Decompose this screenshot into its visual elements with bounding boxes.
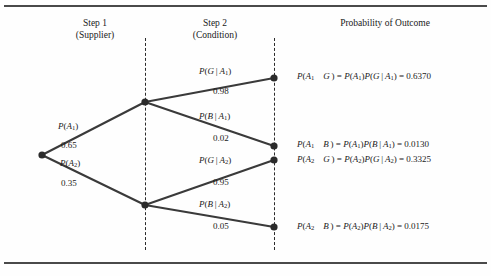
branch-label-a1-sub: 1	[72, 124, 75, 131]
outcome-1-rhs-first: P	[343, 139, 349, 149]
node-a2	[141, 201, 148, 208]
branch-label-a2: P(A2)	[60, 158, 80, 170]
branch-value-a2: 0.35	[61, 178, 77, 188]
node-outcome-a2-g	[270, 156, 277, 163]
outcome-1-lhs-sub: 1	[311, 142, 314, 149]
node-a1	[141, 98, 148, 105]
branch-label-a2-p: P	[60, 158, 66, 168]
tree-edges-and-nodes	[0, 0, 491, 276]
outcome-3-result: 0.0175	[404, 221, 429, 231]
branch-value-b-given-a2: 0.05	[213, 221, 229, 231]
outcome-2-rhs-second-var: G	[373, 154, 380, 164]
outcome-3-lhs-sub: 2	[311, 224, 314, 231]
branch-label-a2-sub: 2	[74, 161, 77, 168]
branch-label-a1: P(A1)	[58, 121, 78, 133]
outcome-2-result: 0.3325	[406, 154, 431, 164]
outcome-0-second-var: G	[323, 71, 330, 81]
outcome-1-rhs-second-sub: 1	[388, 142, 391, 149]
branch-label-a1-p: P	[58, 121, 64, 131]
branch-value-g-given-a2: 0.95	[213, 177, 229, 187]
outcome-2-rhs-first-sub: 2	[358, 157, 361, 164]
outcome-row-a2-b: P(A2B ) = P(A2)P(B | A2) = 0.0175	[297, 221, 429, 231]
node-outcome-a2-b	[270, 223, 277, 230]
edge-a1-to-g	[145, 78, 274, 102]
outcome-0-result: 0.6370	[406, 71, 431, 81]
outcome-2-rhs-first: P	[344, 154, 350, 164]
outcome-1-result: 0.0130	[404, 139, 429, 149]
node-outcome-a1-b	[270, 142, 277, 149]
branch-label-g-given-a2: P(G | A2)	[199, 155, 231, 167]
outcome-3-second-var: B	[323, 221, 329, 231]
outcome-row-a1-g: P(A1G ) = P(A1)P(G | A1) = 0.6370	[297, 71, 431, 81]
node-root	[38, 151, 45, 158]
outcome-0-rhs-second-var: G	[373, 71, 380, 81]
edge-root-to-a2	[42, 155, 145, 205]
node-outcome-a1-g	[270, 74, 277, 81]
outcome-1-second-var: B	[323, 139, 329, 149]
outcome-2-rhs-second-sub: 2	[390, 157, 393, 164]
probability-tree-figure: Step 1 (Supplier) Step 2 (Condition) Pro…	[0, 0, 491, 276]
branch-value-a1: 0.65	[61, 140, 77, 150]
outcome-1-rhs-first-sub: 1	[357, 142, 360, 149]
outcome-1-rhs-second-var: B	[372, 139, 378, 149]
outcome-3-rhs-first: P	[343, 221, 349, 231]
outcome-3-rhs-first-sub: 2	[357, 224, 360, 231]
edge-a1-to-b	[145, 102, 274, 146]
outcome-3-rhs-second-var: B	[372, 221, 378, 231]
branch-label-g-given-a1: P(G | A1)	[199, 66, 231, 78]
outcome-0-rhs-second-sub: 1	[390, 74, 393, 81]
branch-value-b-given-a1: 0.02	[213, 133, 229, 143]
outcome-0-lhs-sub: 1	[311, 74, 314, 81]
branch-value-g-given-a1: 0.98	[213, 86, 229, 96]
branch-label-b-given-a1: P(B | A1)	[199, 111, 230, 123]
outcome-3-rhs-second-sub: 2	[388, 224, 391, 231]
outcome-row-a1-b: P(A1B ) = P(A1)P(B | A1) = 0.0130	[297, 139, 429, 149]
outcome-row-a2-g: P(A2G ) = P(A2)P(G | A2) = 0.3325	[297, 154, 431, 164]
branch-label-b-given-a2: P(B | A2)	[199, 199, 230, 211]
outcome-0-rhs-first-sub: 1	[358, 74, 361, 81]
outcome-2-lhs-sub: 2	[311, 157, 314, 164]
outcome-0-rhs-first: P	[344, 71, 350, 81]
outcome-2-second-var: G	[323, 154, 330, 164]
